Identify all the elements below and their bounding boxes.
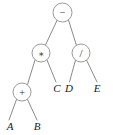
leaf-b-label: B bbox=[34, 120, 41, 132]
node-multiply[interactable]: ∗ bbox=[32, 44, 50, 62]
edge-divide-e bbox=[87, 60, 98, 82]
operator-nodes-group: −∗/+ bbox=[13, 3, 90, 101]
node-root[interactable]: − bbox=[53, 3, 72, 22]
edge-multiply-c bbox=[47, 60, 56, 82]
leaf-e-label: E bbox=[93, 82, 101, 94]
edge-root-divide bbox=[69, 20, 77, 46]
asterisk-operator: ∗ bbox=[38, 49, 44, 59]
edge-plus-a bbox=[9, 100, 17, 121]
edges-group bbox=[9, 20, 97, 120]
plus-operator: + bbox=[19, 87, 25, 98]
node-divide[interactable]: / bbox=[72, 44, 90, 62]
minus-operator: − bbox=[60, 7, 66, 18]
edge-plus-b bbox=[28, 100, 38, 121]
tree-canvas: −∗/+ ABCDE bbox=[0, 0, 113, 135]
edge-multiply-plus bbox=[28, 60, 36, 85]
leaf-a-label: A bbox=[6, 120, 14, 132]
leaf-c-label: C bbox=[53, 82, 61, 94]
edge-divide-d bbox=[70, 60, 76, 82]
edge-root-multiply bbox=[46, 21, 58, 46]
expression-tree-diagram: −∗/+ ABCDE bbox=[0, 0, 113, 135]
leaf-d-label: D bbox=[64, 82, 73, 94]
node-plus[interactable]: + bbox=[13, 83, 31, 101]
